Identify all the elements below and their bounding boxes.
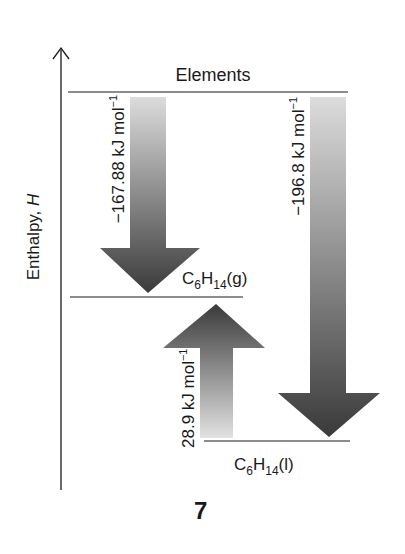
delta-h-elements-to-gas: −167.88 kJ mol−1: [107, 95, 128, 223]
gas-level-label: C6H14(g): [182, 269, 247, 292]
elements-label: Elements: [175, 65, 250, 85]
enthalpy-axis: [53, 48, 69, 490]
delta-h-elements-to-liquid: −196.8 kJ mol−1: [287, 97, 308, 216]
axis-label: Enthalpy, H: [24, 193, 43, 280]
enthalpy-diagram: Enthalpy, H Elements C6H14(g) C6H14(l) −…: [0, 0, 405, 554]
figure-number: 7: [194, 497, 207, 524]
liquid-level-label: C6H14(l): [234, 455, 294, 478]
delta-h-liquid-to-gas: 28.9 kJ mol−1: [177, 349, 198, 448]
